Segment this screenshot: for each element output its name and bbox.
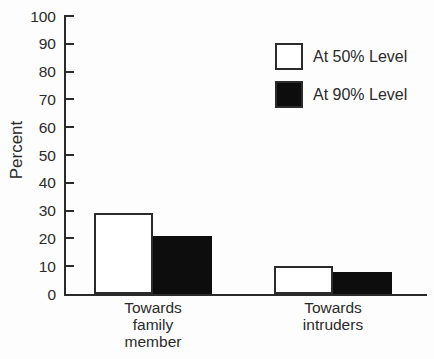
y-tick-mark-10 xyxy=(66,265,74,267)
legend-label-at-50-level: At 50% Level xyxy=(313,43,407,70)
bar-towards-family-member-at-50%-level xyxy=(94,213,153,294)
x-axis-category-label-line: intruders xyxy=(273,316,393,333)
x-axis-category-label-line: family xyxy=(93,316,213,333)
x-axis-category-label-line: member xyxy=(93,333,213,350)
bar-towards-family-member-at-90%-level xyxy=(153,236,212,294)
x-axis-category-label-line: Towards xyxy=(93,299,213,316)
y-tick-label-80: 80 xyxy=(12,63,56,80)
x-axis-category-label-towards-intruders: Towardsintruders xyxy=(273,299,393,333)
y-tick-mark-40 xyxy=(66,182,74,184)
x-axis-line xyxy=(64,294,427,296)
x-axis-category-label-line: Towards xyxy=(273,299,393,316)
y-tick-label-60: 60 xyxy=(12,119,56,136)
y-tick-mark-30 xyxy=(66,210,74,212)
y-tick-label-40: 40 xyxy=(12,174,56,191)
legend-swatch-at-50-level xyxy=(275,43,303,70)
y-tick-mark-80 xyxy=(66,71,74,73)
x-axis-category-label-towards-family-member: Towardsfamilymember xyxy=(93,299,213,350)
bar-towards-intruders-at-50%-level xyxy=(274,266,333,294)
y-tick-label-20: 20 xyxy=(12,230,56,247)
y-tick-mark-50 xyxy=(66,154,74,156)
legend-swatch-at-90-level xyxy=(275,81,303,108)
y-tick-label-10: 10 xyxy=(12,258,56,275)
y-tick-mark-90 xyxy=(66,43,74,45)
y-tick-label-50: 50 xyxy=(12,147,56,164)
bar-towards-intruders-at-90%-level xyxy=(333,272,392,294)
bar-chart-figure: Percent 0102030405060708090100 Towardsfa… xyxy=(0,0,434,359)
legend-item-at-50-level: At 50% Level xyxy=(275,43,407,70)
y-tick-label-70: 70 xyxy=(12,91,56,108)
y-tick-label-90: 90 xyxy=(12,35,56,52)
y-tick-label-30: 30 xyxy=(12,202,56,219)
y-tick-label-0: 0 xyxy=(12,286,56,303)
y-tick-mark-20 xyxy=(66,237,74,239)
y-tick-mark-70 xyxy=(66,98,74,100)
y-tick-mark-100 xyxy=(66,15,74,17)
legend-label-at-90-level: At 90% Level xyxy=(313,81,407,108)
y-tick-label-100: 100 xyxy=(12,8,56,25)
legend-item-at-90-level: At 90% Level xyxy=(275,81,407,108)
y-tick-mark-60 xyxy=(66,126,74,128)
